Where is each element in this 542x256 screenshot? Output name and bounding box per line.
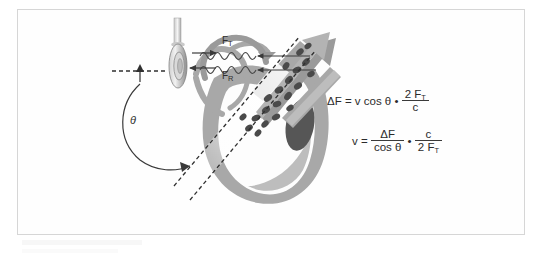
equation2-lead: v = xyxy=(352,135,368,147)
equation1-numerator: 2 FT xyxy=(402,88,429,101)
equation2-denominator-1: cos θ xyxy=(371,141,405,153)
equation2-denominator-2: 2 FT xyxy=(415,141,442,153)
angle-theta-arc-arrow xyxy=(123,84,190,172)
equation1-denominator: c xyxy=(402,101,429,113)
velocity-equation: v = ΔF cos θ • c 2 FT xyxy=(352,128,442,154)
transmitted-frequency-label: FT xyxy=(222,35,233,46)
diagram-artwork xyxy=(0,0,542,256)
equation2-numerator-1: ΔF xyxy=(371,128,405,141)
equation1-lead: ΔF = v cos θ • xyxy=(327,95,398,107)
dashed-horizontal-reference-line xyxy=(112,64,168,82)
equation2-numerator-2: c xyxy=(415,128,442,141)
caption-artifact-secondary xyxy=(22,249,118,253)
doppler-shift-equation: ΔF = v cos θ • 2 FT c xyxy=(327,88,429,114)
equation2-fraction-1: ΔF cos θ xyxy=(371,128,405,154)
caption-artifact xyxy=(22,240,142,245)
received-frequency-label: FR xyxy=(222,70,234,81)
doppler-ultrasound-figure: FT FR θ ΔF = v cos θ • 2 FT c v = ΔF cos… xyxy=(0,0,542,256)
equation1-fraction: 2 FT c xyxy=(402,88,429,114)
equation2-fraction-2: c 2 FT xyxy=(415,128,442,154)
angle-theta-label: θ xyxy=(130,114,136,126)
ultrasound-transducer-probe xyxy=(169,18,187,88)
equation2-operator: • xyxy=(408,135,412,147)
